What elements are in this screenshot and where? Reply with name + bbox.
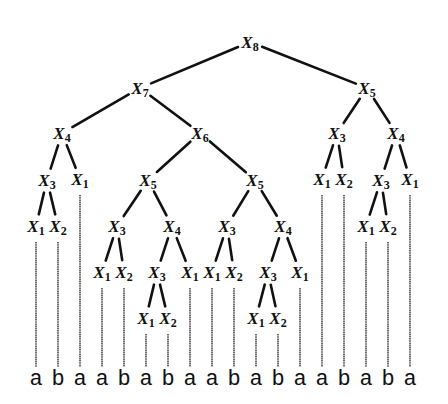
tree-edge [385,145,392,168]
node-variable: X [48,217,61,236]
node-variable: X [158,309,171,328]
leaf-symbol-b: b [161,367,174,392]
terminal-leaves: abaababaababaababa [29,367,416,392]
node-variable: X [258,263,271,282]
leaf-symbol-b: b [337,367,350,392]
preterminal-x1: X1 [290,263,308,284]
node-subscript: 3 [160,270,166,284]
node-subscript: 3 [120,224,126,238]
node-x7: X7 [130,79,148,100]
preterminal-x2: X2 [114,263,132,284]
node-x3: X3 [327,124,345,145]
preterminal-x2: X2 [334,170,352,191]
tree-edge [370,192,377,214]
node-subscript: 1 [193,270,199,284]
tree-edge [216,238,223,260]
node-subscript: 3 [384,178,390,192]
tree-edge [39,193,44,215]
leaf-symbol-a: a [205,367,218,392]
tree-edge [259,285,265,307]
tree-edge [262,191,277,216]
tree-edge [272,238,279,260]
tree-edge [149,285,154,307]
leaf-symbol-a: a [293,367,306,392]
tree-edge [383,193,386,214]
leaf-symbol-a: a [315,367,328,392]
tree-edge [161,238,168,260]
node-variable: X [180,263,193,282]
node-x4: X4 [52,124,70,145]
node-x3: X3 [258,263,276,284]
tree-edge [151,47,238,83]
node-variable: X [386,124,399,143]
node-x3: X3 [371,171,389,192]
node-variable: X [273,217,286,236]
tree-edge [262,47,356,84]
node-subscript: 2 [281,316,287,330]
leaf-symbol-a: a [29,367,42,392]
node-variable: X [246,309,259,328]
node-subscript: 3 [340,131,346,145]
node-x3: X3 [37,171,55,192]
tree-edge [229,239,232,260]
tree-edge [271,285,276,307]
leaf-symbol-a: a [95,367,108,392]
preterminal-x1: X1 [246,309,264,330]
node-variable: X [114,263,127,282]
tree-edge [400,145,407,167]
tree-edge [160,285,165,307]
node-subscript: 4 [286,224,292,238]
preterminal-x2: X2 [48,217,66,238]
node-subscript: 2 [391,224,397,238]
node-variable: X [190,124,203,143]
leaf-symbol-a: a [359,367,372,392]
node-x3: X3 [147,263,165,284]
tree-edge [210,141,246,172]
tree-edge [67,145,76,168]
node-subscript: 6 [203,131,209,145]
node-subscript: 8 [253,40,259,54]
node-subscript: 2 [237,270,243,284]
node-x4: X4 [162,217,180,238]
tree-edge [150,96,190,126]
node-x5: X5 [245,171,263,192]
node-variable: X [138,171,151,190]
node-variable: X [357,79,370,98]
node-subscript: 2 [61,224,67,238]
tree-edge [177,238,186,261]
node-subscript: 1 [303,270,309,284]
node-subscript: 3 [50,178,56,192]
leaf-symbol-a: a [183,367,196,392]
derivation-tree: X8X7X4X3X6X5X3X4X3X5X3X4X3X5X3X4X3X1X2X1… [0,0,448,404]
node-variable: X [371,171,384,190]
tree-edge [72,94,128,127]
node-variable: X [70,170,83,189]
node-subscript: 1 [105,270,111,284]
node-variable: X [52,124,65,143]
tree-edge [157,142,190,172]
tree-edge [124,191,141,216]
node-subscript: 4 [175,224,181,238]
node-subscript: 1 [149,316,155,330]
node-subscript: 1 [39,224,45,238]
leaf-symbol-b: b [381,367,394,392]
node-x3: X3 [107,217,125,238]
node-subscript: 1 [325,177,331,191]
tree-edge [326,145,333,167]
preterminal-x1: X1 [70,170,88,191]
node-subscript: 2 [347,177,353,191]
node-x4: X4 [273,217,291,238]
tree-edge [119,239,122,260]
node-subscript: 2 [171,316,177,330]
node-subscript: 1 [369,224,375,238]
node-subscript: 5 [258,178,264,192]
node-subscript: 1 [413,177,419,191]
node-variable: X [240,33,253,52]
tree-edge [344,99,360,123]
preterminal-x2: X2 [158,309,176,330]
node-subscript: 4 [65,131,71,145]
tree-edge [154,192,166,216]
node-subscript: 5 [370,86,376,100]
node-x6: X6 [190,124,208,145]
leaf-symbol-b: b [51,367,64,392]
